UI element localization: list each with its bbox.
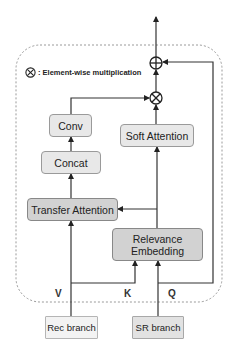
relevance-embedding-label-line2: Embedding	[131, 245, 184, 257]
legend: : Element-wise multiplication	[25, 67, 141, 78]
legend-text: : Element-wise multiplication	[38, 68, 141, 77]
multiply-operator-icon	[150, 92, 162, 104]
rec-branch-label: Rec branch	[47, 322, 96, 334]
multiply-legend-icon	[25, 67, 36, 78]
relevance-embedding-node: Relevance Embedding	[112, 228, 203, 261]
sr-branch-node: SR branch	[132, 316, 184, 339]
conv-to-mult-arrow	[71, 98, 149, 114]
soft-attention-label: Soft Attention	[126, 130, 188, 142]
k-input-arrow	[71, 261, 135, 283]
add-operator-icon	[150, 57, 162, 69]
diagram-canvas	[0, 0, 235, 356]
q-label: Q	[168, 288, 176, 299]
v-label: V	[55, 288, 62, 299]
rec-branch-node: Rec branch	[45, 316, 98, 339]
concat-node: Concat	[41, 151, 101, 174]
transfer-attention-node: Transfer Attention	[27, 198, 118, 221]
conv-node: Conv	[49, 114, 92, 137]
soft-attention-node: Soft Attention	[120, 124, 194, 147]
k-label: K	[124, 288, 131, 299]
sr-branch-label: SR branch	[136, 322, 181, 334]
relevance-embedding-label-line1: Relevance	[133, 233, 183, 245]
conv-label: Conv	[58, 120, 83, 132]
concat-label: Concat	[54, 157, 87, 169]
transfer-attention-label: Transfer Attention	[31, 204, 114, 216]
